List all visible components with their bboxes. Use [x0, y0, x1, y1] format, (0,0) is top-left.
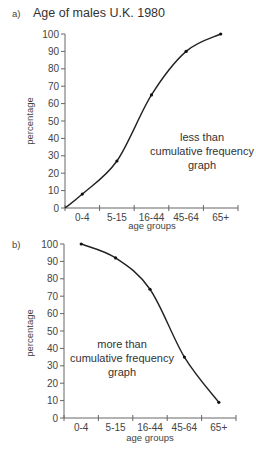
chart-a-x-tick-label: 0-4	[75, 212, 90, 223]
chart-a-y-tick-label: 50	[48, 116, 60, 127]
chart-b-x-tick-label: 5-15	[106, 422, 126, 433]
chart-b-data-point	[148, 288, 151, 291]
chart-a-data-point	[81, 192, 84, 195]
chart-a-y-tick-label: 90	[48, 46, 60, 57]
chart-b-annotation-line3: graph	[108, 366, 136, 378]
chart-b-x-tick-label: 0-4	[74, 422, 89, 433]
chart-b-y-tick-label: 90	[47, 256, 59, 267]
chart-b-x-tick-label: 45-64	[172, 422, 198, 433]
chart-b-y-tick-label: 100	[41, 239, 58, 250]
chart-a-data-point	[185, 50, 188, 53]
chart-b-y-tick-label: 50	[47, 326, 59, 337]
chart-b-y-tick-label: 20	[47, 378, 59, 389]
chart-a-annotation-line2: cumulative frequency	[150, 145, 254, 157]
chart-a-y-tick-label: 60	[48, 98, 60, 109]
chart-a-y-tick-label: 70	[48, 81, 60, 92]
chart-a-data-point	[219, 32, 222, 35]
chart-b-y-tick-label: 60	[47, 308, 59, 319]
chart-b-data-point	[114, 256, 117, 259]
chart-a-series-line	[65, 34, 221, 208]
chart-b-y-tick-label: 10	[47, 395, 59, 406]
chart-a-title: Age of males U.K. 1980	[33, 6, 165, 20]
chart-b-y-tick-label: 70	[47, 291, 59, 302]
panel-a-label: a)	[12, 8, 20, 19]
chart-a-x-tick-label: 65+	[212, 212, 229, 223]
chart-b-y-tick-label: 30	[47, 360, 59, 371]
chart-b-data-point	[183, 356, 186, 359]
chart-a-annotation-line3: graph	[188, 159, 216, 171]
chart-b-x-tick-label: 65+	[210, 422, 227, 433]
chart-b-x-tick-label: 16-44	[137, 422, 163, 433]
chart-a-x-tick-label: 45-64	[173, 212, 199, 223]
chart-a-annotation-line1: less than	[180, 131, 224, 143]
cumulative-frequency-figure: a) Age of males U.K. 1980 age groups per…	[0, 0, 256, 452]
chart-a-y-tick-label: 0	[53, 203, 59, 214]
chart-a-x-tick-label: 5-15	[107, 212, 127, 223]
chart-b-x-axis-title: age groups	[126, 432, 174, 443]
chart-b-y-tick-label: 80	[47, 273, 59, 284]
chart-b-data-point	[80, 242, 83, 245]
chart-b-annotation-line1: more than	[97, 338, 147, 350]
chart-a-data-point	[115, 159, 118, 162]
chart-a-y-tick-label: 40	[48, 133, 60, 144]
chart-a-plot: 01020304050607080901000-45-1516-4445-646…	[42, 29, 238, 224]
chart-b-plot: 01020304050607080901000-45-1516-4445-646…	[41, 239, 236, 434]
chart-a-x-tick-label: 16-44	[139, 212, 165, 223]
chart-a-y-axis-title: percentage	[24, 97, 35, 145]
chart-b-series-line	[81, 244, 219, 402]
chart-b-y-tick-label: 40	[47, 343, 59, 354]
chart-a-y-tick-label: 100	[42, 29, 59, 40]
chart-b-data-point	[217, 401, 220, 404]
chart-a-y-tick-label: 80	[48, 63, 60, 74]
chart-a-y-tick-label: 10	[48, 185, 60, 196]
chart-a-data-point	[150, 93, 153, 96]
chart-b-annotation-line2: cumulative frequency	[70, 352, 174, 364]
chart-a-y-tick-label: 20	[48, 168, 60, 179]
chart-b-y-tick-label: 0	[52, 413, 58, 424]
panel-b-label: b)	[12, 239, 20, 250]
chart-a-y-tick-label: 30	[48, 150, 60, 161]
chart-b-y-axis-title: percentage	[24, 309, 35, 357]
